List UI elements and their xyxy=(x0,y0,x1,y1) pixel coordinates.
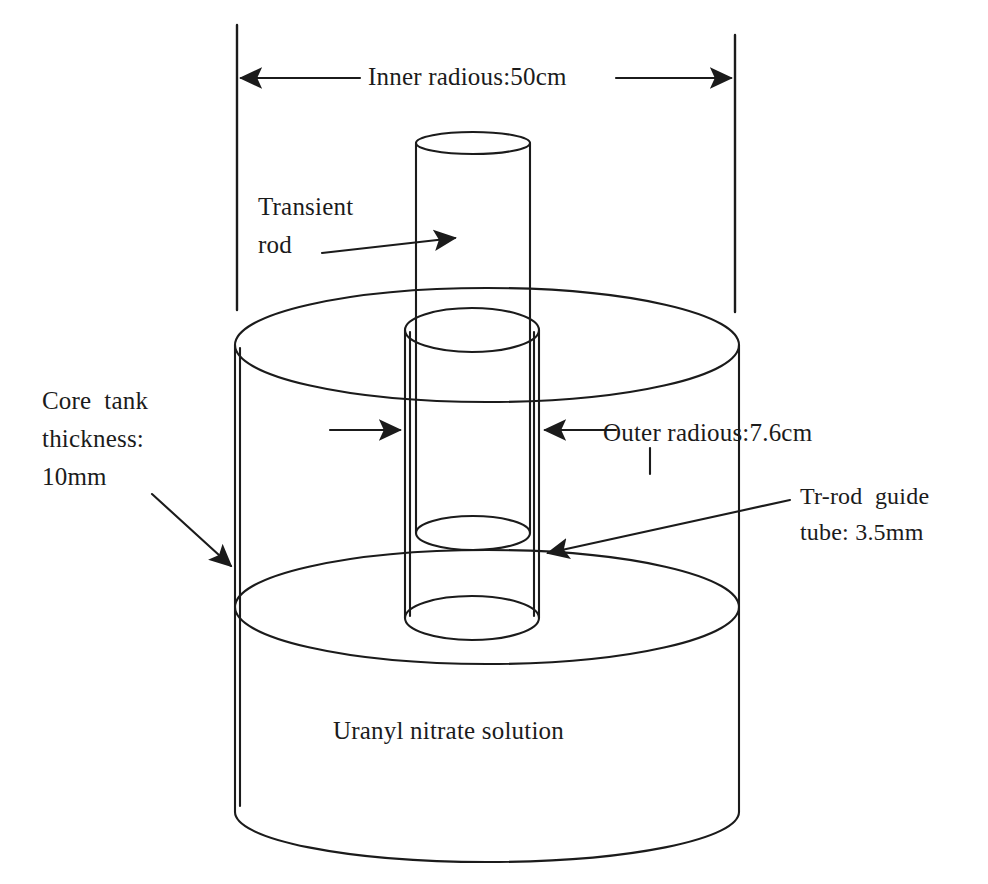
core-tank-thickness-label: Core tankthickness:10mm xyxy=(42,382,148,496)
core-tank-label-line2: thickness: xyxy=(42,425,144,452)
guide-tube-label: Tr-rod guidetube: 3.5mm xyxy=(800,478,929,551)
core-tank-label-line3: 10mm xyxy=(42,463,107,490)
transient-rod-top-ellipse xyxy=(416,132,530,154)
schematic-drawing xyxy=(0,0,988,884)
core-tank-leader-arrow xyxy=(152,494,231,566)
outer-radius-label: Outer radious:7.6cm xyxy=(603,414,812,452)
transient-rod-label: Transientrod xyxy=(258,188,353,264)
transient-rod-bottom-ellipse xyxy=(416,516,530,550)
guide-tube-bottom-ellipse xyxy=(405,596,539,640)
transient-rod-label-line1: Transient xyxy=(258,193,353,220)
guide-tube-top-ellipse xyxy=(405,308,539,352)
guide-tube-label-line1: Tr-rod guide xyxy=(800,483,929,509)
guide-tube-leader-arrow xyxy=(548,500,790,553)
figure-root: Inner radious:50cm Transientrod Core tan… xyxy=(0,0,988,884)
transient-rod-label-line2: rod xyxy=(258,231,292,258)
core-tank-bottom-arc xyxy=(235,812,739,862)
cut-off-caption xyxy=(0,866,988,884)
solution-surface-ellipse xyxy=(235,550,739,664)
solution-label: Uranyl nitrate solution xyxy=(333,712,564,750)
core-tank-label-line1: Core tank xyxy=(42,387,148,414)
inner-radius-label: Inner radious:50cm xyxy=(368,58,567,96)
guide-tube-label-line2: tube: 3.5mm xyxy=(800,519,924,545)
core-tank-top-ellipse xyxy=(235,288,739,402)
